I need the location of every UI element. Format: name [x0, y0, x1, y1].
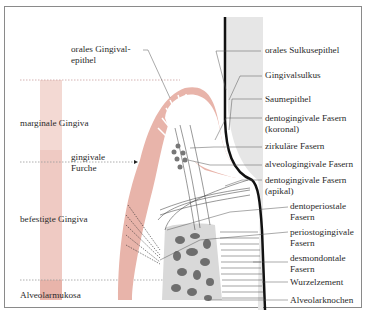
- label-desmondontale-fasern: desmondontale Fasern: [290, 253, 346, 274]
- label-wurzelzement: Wurzelzement: [290, 277, 343, 288]
- label-marginale-gingiva: marginale Gingiva: [20, 118, 88, 129]
- label-zirkulaere-fasern: zirkuläre Fasern: [265, 141, 324, 152]
- label-alveologingivale-fasern: alveologingivale Fasern: [265, 159, 353, 170]
- label-gingivale-furche: gingivale Furche: [71, 152, 105, 173]
- label-gingivalsulkus: Gingivalsulkus: [265, 70, 321, 81]
- label-orales-sulkusepithel: orales Sulkusepithel: [265, 45, 339, 56]
- label-befestigte-gingiva: befestigte Gingiva: [20, 214, 88, 225]
- marginal-zone-band: [40, 80, 62, 150]
- label-orales-gingivalepithel: orales Gingival- epithel: [71, 44, 130, 65]
- label-alveolarknochen: Alveolarknochen: [290, 295, 353, 306]
- label-periostogingivale-fasern: periostogingivale Fasern: [290, 227, 354, 248]
- furche-arrow-icon: [134, 160, 138, 164]
- label-alveolarmukosa: Alveolarmukosa: [20, 290, 81, 301]
- label-dentogingivale-fasern-apikal: dentogingivale Fasern (apikal): [265, 175, 346, 196]
- label-saumepithel: Saumepithel: [265, 94, 311, 105]
- label-dentogingivale-fasern-koronal: dentogingivale Fasern (koronal): [265, 113, 346, 134]
- label-dentoperiostale-fasern: dentoperiostale Fasern: [290, 201, 346, 222]
- desmodontal-fibers: [220, 232, 263, 298]
